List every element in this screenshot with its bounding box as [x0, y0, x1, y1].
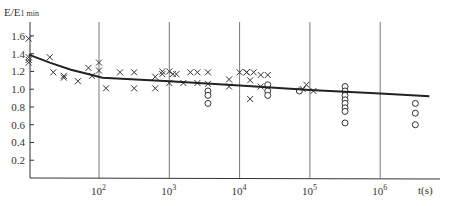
x-axis [30, 178, 440, 179]
cross-marker [173, 71, 179, 77]
fit-curve [29, 55, 430, 97]
cross-marker [244, 69, 250, 75]
y-axis-label: E/E1 min [4, 6, 39, 18]
cross-marker [85, 65, 91, 71]
x-tick-label: 106 [372, 183, 387, 197]
cross-marker [152, 85, 158, 91]
circle-marker [412, 122, 418, 128]
cross-marker [251, 69, 257, 75]
cross-marker [247, 96, 253, 102]
y-tick-label: 0.4 [11, 136, 25, 148]
cross-marker [152, 74, 158, 80]
cross-marker [117, 69, 123, 75]
cross-marker [75, 78, 81, 84]
cross-marker [247, 77, 253, 83]
plot-area [26, 36, 430, 128]
x-axis-label: t(s) [418, 184, 433, 197]
circle-marker [412, 100, 418, 106]
circle-marker [205, 92, 211, 98]
cross-marker [226, 76, 232, 82]
cross-marker [103, 85, 109, 91]
circle-marker [265, 92, 271, 98]
cross-marker [50, 69, 56, 75]
cross-marker [265, 72, 271, 78]
y-tick-label: 0.8 [11, 101, 25, 113]
y-tick-label: 0.2 [11, 154, 25, 166]
x-tick-label: 102 [91, 183, 106, 197]
chart: 0.20.40.60.81.01.21.41.6102103104105106 … [0, 0, 449, 206]
cross-marker [303, 82, 309, 88]
cross-marker [131, 69, 137, 75]
y-tick-label: 1.6 [11, 30, 25, 42]
y-tick-label: 0.6 [11, 119, 25, 131]
circle-marker [412, 110, 418, 116]
axes: 0.20.40.60.81.01.21.41.6102103104105106 [11, 22, 440, 197]
cross-marker [47, 54, 53, 60]
y-tick-label: 1.2 [11, 65, 25, 77]
cross-marker [205, 69, 211, 75]
cross-marker [194, 69, 200, 75]
x-tick-label: 105 [302, 183, 317, 197]
cross-marker [187, 69, 193, 75]
circle-marker [342, 120, 348, 126]
cross-marker [26, 36, 32, 42]
circle-marker [205, 100, 211, 106]
x-tick-label: 104 [232, 183, 247, 197]
y-tick-label: 1.4 [11, 48, 25, 60]
x-tick-label: 103 [161, 183, 176, 197]
cross-marker [131, 85, 137, 91]
y-tick-label: 1.0 [11, 83, 25, 95]
circle-marker [342, 108, 348, 114]
cross-marker [258, 72, 264, 78]
